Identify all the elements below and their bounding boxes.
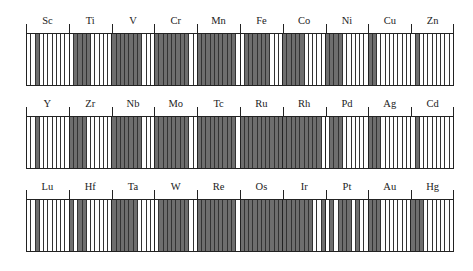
divider-tick: [197, 107, 198, 116]
element-block-os: [240, 200, 283, 251]
element-block-au: [368, 200, 411, 251]
divider-tick: [197, 190, 198, 199]
row-period-6: LuHfTaWReOsIrPtAuHg: [26, 190, 454, 252]
element-block-nb: [111, 117, 154, 168]
element-symbol: Zn: [411, 15, 454, 26]
divider-tick: [326, 24, 327, 33]
divider-tick: [368, 24, 369, 33]
element-block-lu: [27, 200, 69, 251]
element-symbol: Re: [197, 181, 240, 192]
element-symbol: Au: [368, 181, 411, 192]
divider-tick: [326, 190, 327, 199]
divider-tick: [411, 24, 412, 33]
divider-tick: [69, 190, 70, 199]
element-symbol: Hf: [69, 181, 112, 192]
stripe-box: [26, 116, 454, 169]
element-block-rh: [282, 117, 325, 168]
stripe-box: [26, 33, 454, 86]
element-symbol: Fe: [240, 15, 283, 26]
element-block-cd: [410, 117, 453, 168]
element-block-ti: [69, 34, 112, 85]
element-block-re: [197, 200, 240, 251]
element-symbol: Os: [240, 181, 283, 192]
divider-tick: [453, 107, 454, 116]
element-block-cr: [154, 34, 197, 85]
element-symbol: Zr: [69, 98, 112, 109]
element-symbol: Ti: [69, 15, 112, 26]
divider-tick: [283, 190, 284, 199]
row-period-4: ScTiVCrMnFeCoNiCuZn: [26, 24, 454, 86]
divider-tick: [411, 107, 412, 116]
element-block-w: [154, 200, 197, 251]
element-block-co: [282, 34, 325, 85]
element-symbol: Tc: [197, 98, 240, 109]
divider-tick: [154, 24, 155, 33]
empty-stripe: [450, 200, 453, 251]
element-block-sc: [27, 34, 69, 85]
element-symbol: Ir: [283, 181, 326, 192]
element-symbol: Lu: [26, 181, 69, 192]
element-block-hf: [69, 200, 112, 251]
element-block-v: [111, 34, 154, 85]
element-block-zr: [69, 117, 112, 168]
element-symbol: Co: [283, 15, 326, 26]
element-symbol: Ag: [368, 98, 411, 109]
element-block-ag: [368, 117, 411, 168]
element-symbol: Mn: [197, 15, 240, 26]
element-symbol: Cr: [154, 15, 197, 26]
element-symbol: Cd: [411, 98, 454, 109]
element-block-y: [27, 117, 69, 168]
element-symbol: Pd: [326, 98, 369, 109]
divider-tick: [26, 107, 27, 116]
divider-tick: [411, 190, 412, 199]
element-block-ta: [111, 200, 154, 251]
divider-tick: [326, 107, 327, 116]
element-block-ir: [282, 200, 325, 251]
divider-tick: [112, 190, 113, 199]
element-block-tc: [197, 117, 240, 168]
row-period-5: YZrNbMoTcRuRhPdAgCd: [26, 107, 454, 169]
element-block-cu: [368, 34, 411, 85]
element-symbol: Cu: [368, 15, 411, 26]
element-symbol: Ni: [326, 15, 369, 26]
empty-stripe: [450, 117, 453, 168]
element-symbol: Mo: [154, 98, 197, 109]
element-symbol: W: [154, 181, 197, 192]
divider-tick: [453, 190, 454, 199]
divider-tick: [240, 24, 241, 33]
divider-tick: [69, 107, 70, 116]
element-symbol: Ta: [112, 181, 155, 192]
element-block-ni: [325, 34, 368, 85]
empty-stripe: [450, 34, 453, 85]
element-block-zn: [410, 34, 453, 85]
stripe-box: [26, 199, 454, 252]
divider-tick: [240, 107, 241, 116]
divider-tick: [154, 107, 155, 116]
element-symbol: Hg: [411, 181, 454, 192]
element-block-ru: [240, 117, 283, 168]
element-block-hg: [410, 200, 453, 251]
element-block-pd: [325, 117, 368, 168]
element-symbol: Pt: [326, 181, 369, 192]
element-block-mn: [197, 34, 240, 85]
divider-tick: [26, 190, 27, 199]
element-symbol: Y: [26, 98, 69, 109]
element-block-mo: [154, 117, 197, 168]
element-symbol: V: [112, 15, 155, 26]
divider-tick: [112, 24, 113, 33]
divider-tick: [453, 24, 454, 33]
divider-tick: [154, 190, 155, 199]
divider-tick: [283, 24, 284, 33]
divider-tick: [197, 24, 198, 33]
divider-tick: [26, 24, 27, 33]
element-block-fe: [240, 34, 283, 85]
element-symbol: Rh: [283, 98, 326, 109]
element-symbol: Sc: [26, 15, 69, 26]
divider-tick: [69, 24, 70, 33]
divider-tick: [368, 107, 369, 116]
element-symbol: Nb: [112, 98, 155, 109]
divider-tick: [368, 190, 369, 199]
divider-tick: [283, 107, 284, 116]
element-block-pt: [325, 200, 368, 251]
divider-tick: [112, 107, 113, 116]
